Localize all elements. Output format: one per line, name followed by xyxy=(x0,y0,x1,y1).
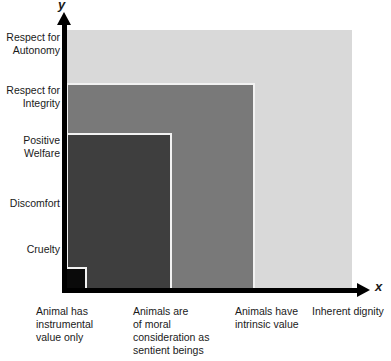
y-tick-label-respect-for-integrity-line2: Integrity xyxy=(2,97,60,110)
y-tick-label-respect-for-autonomy: Respect for Autonomy xyxy=(2,31,60,56)
y-tick-label-respect-for-integrity: Respect for Integrity xyxy=(2,84,60,109)
welfare-moral-status-chart: y x Cruelty Discomfort Positive Welfare … xyxy=(0,0,391,361)
x-tick-label-moral-consideration-line4: sentient beings xyxy=(133,344,233,357)
y-tick-label-positive-welfare-line2: Welfare xyxy=(2,147,60,160)
x-tick-label-instrumental-value-line1: Animal has xyxy=(36,305,120,318)
band-instrumental-value xyxy=(66,267,87,289)
x-tick-label-moral-consideration-line2: of moral xyxy=(133,318,233,331)
y-tick-label-discomfort-line1: Discomfort xyxy=(2,197,60,210)
x-tick-label-inherent-dignity: Inherent dignity xyxy=(312,305,391,318)
y-tick-label-positive-welfare: Positive Welfare xyxy=(2,134,60,159)
y-tick-label-discomfort: Discomfort xyxy=(2,197,60,210)
x-tick-label-instrumental-value: Animal has instrumental value only xyxy=(36,305,120,344)
y-axis-arrow-icon xyxy=(57,12,71,25)
x-tick-label-intrinsic-value-line2: intrinsic value xyxy=(235,318,325,331)
y-axis-title: y xyxy=(58,0,65,12)
y-tick-label-respect-for-integrity-line1: Respect for xyxy=(2,84,60,97)
y-tick-label-cruelty: Cruelty xyxy=(2,243,60,256)
x-tick-label-moral-consideration-line1: Animals are xyxy=(133,305,233,318)
x-tick-label-instrumental-value-line3: value only xyxy=(36,331,120,344)
y-axis-line xyxy=(62,22,67,292)
x-axis-line xyxy=(62,288,359,293)
y-tick-label-respect-for-autonomy-line2: Autonomy xyxy=(2,44,60,57)
x-tick-label-inherent-dignity-line1: Inherent dignity xyxy=(312,305,391,318)
x-axis-title: x xyxy=(375,279,382,294)
band-moral-consideration xyxy=(66,133,172,289)
x-tick-label-moral-consideration-line3: consideration as xyxy=(133,331,233,344)
x-tick-label-instrumental-value-line2: instrumental xyxy=(36,318,120,331)
y-tick-label-positive-welfare-line1: Positive xyxy=(2,134,60,147)
x-tick-label-moral-consideration: Animals are of moral consideration as se… xyxy=(133,305,233,357)
x-axis-arrow-icon xyxy=(357,283,370,297)
y-tick-label-respect-for-autonomy-line1: Respect for xyxy=(2,31,60,44)
y-tick-label-cruelty-line1: Cruelty xyxy=(2,243,60,256)
